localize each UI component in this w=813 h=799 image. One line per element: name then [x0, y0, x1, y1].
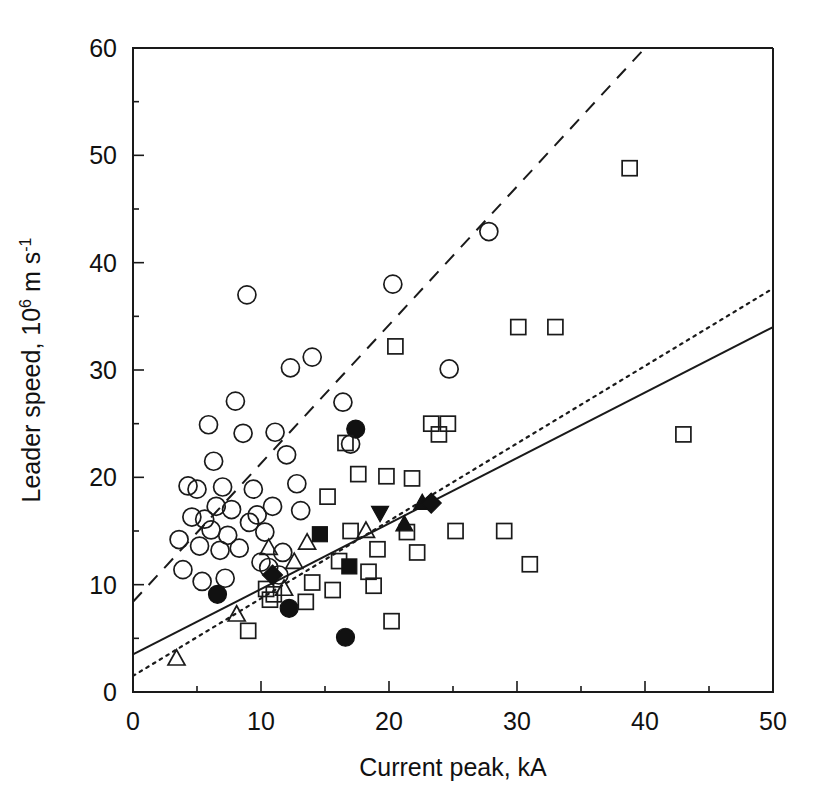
y-tick-label: 10 [89, 571, 117, 599]
x-tick-label: 40 [631, 707, 659, 735]
fit-lines-layer [133, 48, 773, 676]
data-point-open-square [320, 489, 335, 504]
data-point-open-circle [205, 452, 223, 470]
data-point-open-square [384, 614, 399, 629]
data-point-open-circle [384, 275, 402, 293]
data-point-filled-square [312, 527, 327, 542]
data-point-open-square [522, 557, 537, 572]
data-point-open-circle [202, 521, 220, 539]
fit-line-dashed [133, 48, 645, 602]
x-tick-label: 10 [247, 707, 275, 735]
data-point-open-circle [216, 569, 234, 587]
data-point-open-circle [292, 502, 310, 520]
figure-container: 010203040506001020304050Current peak, kA… [0, 0, 813, 799]
data-point-open-square [343, 524, 358, 539]
data-point-open-square [405, 471, 420, 486]
data-point-open-circle [200, 416, 218, 434]
data-point-open-circle [174, 561, 192, 579]
data-point-open-circle [214, 478, 232, 496]
data-point-open-square [548, 320, 563, 335]
data-point-open-square [497, 524, 512, 539]
data-point-open-square [448, 524, 463, 539]
data-point-open-square [622, 161, 637, 176]
data-point-open-square [366, 578, 381, 593]
data-point-open-circle [256, 523, 274, 541]
data-point-open-circle [288, 475, 306, 493]
y-tick-label: 0 [103, 678, 117, 706]
data-point-open-square [388, 339, 403, 354]
data-point-open-circle [480, 223, 498, 241]
data-point-open-square [379, 469, 394, 484]
x-tick-label: 50 [759, 707, 787, 735]
data-point-open-square [676, 427, 691, 442]
data-point-open-circle [193, 572, 211, 590]
y-tick-label: 40 [89, 249, 117, 277]
data-point-open-square [511, 320, 526, 335]
data-point-filled-circle [280, 599, 298, 617]
data-point-open-circle [266, 423, 284, 441]
data-point-open-circle [244, 480, 262, 498]
x-tick-label: 0 [126, 707, 140, 735]
data-point-filled-circle [336, 628, 354, 646]
data-point-open-square [351, 467, 366, 482]
y-tick-label: 30 [89, 356, 117, 384]
data-point-open-circle [440, 360, 458, 378]
data-point-open-circle [230, 539, 248, 557]
data-point-open-triangle-up [228, 606, 245, 621]
data-point-open-circle [234, 424, 252, 442]
data-point-open-circle [281, 359, 299, 377]
fit-line-dotted [133, 288, 773, 675]
data-point-open-square [370, 542, 385, 557]
y-tick-label: 50 [89, 141, 117, 169]
data-point-filled-square [342, 559, 357, 574]
x-tick-label: 20 [375, 707, 403, 735]
data-point-open-circle [226, 392, 244, 410]
data-point-filled-triangle-down [372, 506, 389, 521]
data-point-filled-circle [208, 585, 226, 603]
data-point-open-square [305, 575, 320, 590]
data-point-open-circle [303, 348, 321, 366]
data-point-open-triangle-up [168, 650, 185, 665]
data-point-open-triangle-up [286, 553, 303, 568]
x-axis-title: Current peak, kA [359, 753, 547, 781]
y-axis-title: Leader speed, 106 m s-1 [17, 237, 45, 502]
axes-layer [133, 48, 773, 692]
y-tick-label: 60 [89, 34, 117, 62]
data-point-open-square [338, 435, 353, 450]
data-point-open-square [325, 583, 340, 598]
data-point-open-square [298, 594, 313, 609]
data-point-open-square [410, 545, 425, 560]
y-tick-label: 20 [89, 463, 117, 491]
data-point-open-circle [170, 531, 188, 549]
data-point-open-circle [238, 286, 256, 304]
data-point-open-circle [334, 393, 352, 411]
scatter-plot: 010203040506001020304050Current peak, kA… [0, 0, 813, 799]
data-point-open-square [241, 623, 256, 638]
data-point-open-square [361, 564, 376, 579]
data-point-open-circle [264, 497, 282, 515]
data-point-open-circle [278, 446, 296, 464]
data-markers-layer [168, 161, 691, 665]
x-tick-label: 30 [503, 707, 531, 735]
data-point-filled-diamond [421, 493, 441, 513]
data-point-open-circle [191, 537, 209, 555]
plot-frame [133, 48, 773, 692]
data-point-open-square [440, 416, 455, 431]
data-point-open-circle [183, 508, 201, 526]
